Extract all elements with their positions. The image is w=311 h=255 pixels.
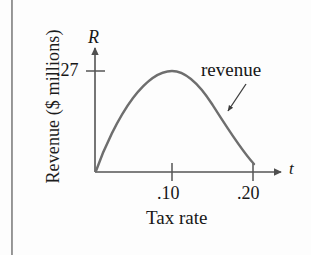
x-tick-label-010: .10: [157, 183, 180, 204]
revenue-curve-figure: Revenue ($ millions) .27 R t .10 .20 Tax…: [0, 0, 311, 255]
x-axis-symbol-label: t: [289, 159, 294, 179]
revenue-series-annotation: revenue: [201, 59, 261, 81]
x-axis-title: Tax rate: [146, 207, 207, 229]
revenue-leader-line: [228, 84, 246, 111]
revenue-curve: [96, 71, 254, 171]
y-tick-label-027: .27: [56, 60, 79, 81]
y-axis-symbol-label: R: [88, 27, 99, 48]
x-tick-label-020: .20: [237, 183, 260, 204]
